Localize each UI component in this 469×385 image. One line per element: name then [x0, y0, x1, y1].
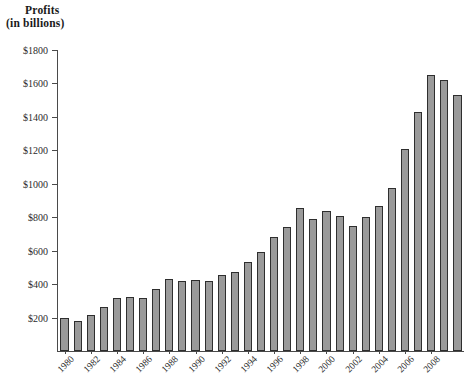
x-axis-tick-label: 1982 [81, 354, 102, 375]
bar [349, 226, 357, 351]
x-axis-tick-label: 2000 [317, 354, 338, 375]
bar [296, 208, 304, 351]
chart-title-line-2: (in billions) [6, 17, 65, 30]
x-axis-tick-label: 1984 [107, 354, 128, 375]
bar [270, 237, 278, 351]
x-axis-tick-label: 1994 [238, 354, 259, 375]
chart-title: Profits (in billions) [6, 4, 65, 30]
bar [231, 272, 239, 351]
bar [139, 298, 147, 352]
x-axis-tick-mark [169, 351, 170, 354]
bar [401, 149, 409, 351]
x-axis-tick-mark [405, 351, 406, 354]
bar [113, 298, 121, 352]
x-axis-tick-mark [222, 351, 223, 354]
x-axis-tick-mark [143, 351, 144, 354]
bar [257, 252, 265, 351]
bar [205, 281, 213, 351]
x-axis-tick-label: 1980 [55, 354, 76, 375]
chart-title-line-1: Profits [6, 4, 65, 17]
x-axis-tick-mark [274, 351, 275, 354]
bar [244, 262, 252, 351]
bar [60, 318, 68, 351]
y-axis-tick-label: $1800 [23, 45, 48, 56]
x-axis-tick-mark [353, 351, 354, 354]
x-axis-tick-label: 1990 [186, 354, 207, 375]
bar [191, 280, 199, 351]
x-axis-tick-label: 2004 [369, 354, 390, 375]
bar [126, 297, 134, 351]
bar [375, 206, 383, 351]
x-axis-tick-mark [431, 351, 432, 354]
bar [322, 211, 330, 351]
bar [453, 95, 461, 351]
bar [427, 75, 435, 351]
x-axis-tick-mark [248, 351, 249, 354]
y-axis-tick-label: $1000 [23, 178, 48, 189]
y-axis-tick-label: $200 [28, 312, 48, 323]
bar [87, 315, 95, 351]
bar [178, 281, 186, 351]
y-axis-tick-label: $1600 [23, 78, 48, 89]
x-axis-tick-label: 1998 [291, 354, 312, 375]
x-axis-tick-label: 1988 [160, 354, 181, 375]
bar [440, 80, 448, 351]
x-axis-tick-label: 2002 [343, 354, 364, 375]
bar [388, 188, 396, 351]
y-axis-tick-label: $800 [28, 212, 48, 223]
x-axis-tick-mark [117, 351, 118, 354]
y-axis-tick-label: $600 [28, 245, 48, 256]
x-axis-tick-mark [379, 351, 380, 354]
bar [283, 227, 291, 351]
x-axis-tick-label: 1986 [134, 354, 155, 375]
profits-bar-chart: Profits (in billions) $200$400$600$800$1… [0, 0, 469, 385]
bars-group [58, 50, 464, 351]
bar [165, 279, 173, 351]
bar [336, 216, 344, 351]
y-axis-tick-label: $1200 [23, 145, 48, 156]
bar [152, 289, 160, 351]
bar [100, 307, 108, 351]
x-axis-tick-label: 1992 [212, 354, 233, 375]
x-axis-tick-mark [326, 351, 327, 354]
x-axis-tick-mark [196, 351, 197, 354]
x-axis-tick-label: 2006 [396, 354, 417, 375]
x-axis-line [57, 351, 464, 352]
x-axis-tick-mark [65, 351, 66, 354]
bar [309, 219, 317, 351]
y-axis-tick-label: $1400 [23, 111, 48, 122]
bar [414, 112, 422, 351]
x-axis-tick-label: 1996 [265, 354, 286, 375]
bar [74, 321, 82, 351]
x-axis-tick-label: 2008 [422, 354, 443, 375]
plot-area: $200$400$600$800$1000$1200$1400$1600$180… [57, 50, 464, 352]
x-axis-tick-mark [300, 351, 301, 354]
bar [218, 275, 226, 351]
x-axis-tick-mark [91, 351, 92, 354]
y-axis-tick-label: $400 [28, 279, 48, 290]
bar [362, 217, 370, 351]
